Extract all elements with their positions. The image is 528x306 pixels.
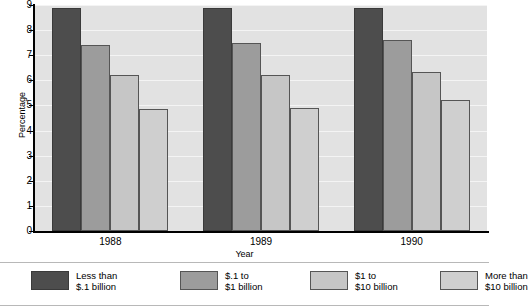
y-tick-mark xyxy=(29,30,34,31)
bar xyxy=(232,43,261,231)
legend-swatch xyxy=(310,271,348,290)
legend-label-line1: Less than xyxy=(76,270,117,281)
legend-item[interactable]: More than$10 billion xyxy=(440,270,528,292)
bar xyxy=(354,8,383,231)
legend-label-line2: $10 billion xyxy=(355,281,398,292)
legend-label-line2: $10 billion xyxy=(485,281,528,292)
legend-label: $1 to$10 billion xyxy=(355,270,398,292)
gridline xyxy=(35,30,487,31)
y-tick-mark xyxy=(29,181,34,182)
y-tick-mark xyxy=(29,105,34,106)
bar xyxy=(261,75,290,231)
x-tick-label: 1990 xyxy=(382,236,442,247)
bar xyxy=(290,108,319,231)
bar xyxy=(383,40,412,231)
legend-item[interactable]: $.1 to$1 billion xyxy=(180,270,263,292)
y-tick-mark xyxy=(29,55,34,56)
y-tick-mark xyxy=(29,231,34,232)
bar xyxy=(81,45,110,231)
bar xyxy=(203,8,232,231)
legend-label-line1: More than xyxy=(485,270,528,281)
bar xyxy=(412,72,441,231)
plot-area xyxy=(35,5,487,231)
y-tick-mark xyxy=(29,206,34,207)
y-tick-mark xyxy=(29,5,34,6)
legend-item[interactable]: Less than$.1 billion xyxy=(31,270,117,292)
x-tick-label: 1989 xyxy=(231,236,291,247)
legend-label: More than$10 billion xyxy=(485,270,528,292)
chart-legend: Less than$.1 billion$.1 to$1 billion$1 t… xyxy=(0,262,489,306)
y-tick-mark xyxy=(29,80,34,81)
legend-label-line2: $.1 billion xyxy=(76,281,117,292)
x-axis-label: Year xyxy=(0,249,489,259)
legend-label-line2: $1 billion xyxy=(225,281,263,292)
x-axis-line xyxy=(33,231,489,233)
y-tick-mark xyxy=(29,156,34,157)
legend-swatch xyxy=(31,271,69,290)
y-tick-mark xyxy=(29,131,34,132)
legend-swatch xyxy=(440,271,478,290)
y-axis-tick-labels: 0123456789 xyxy=(18,0,32,235)
bar xyxy=(52,8,81,231)
legend-swatch xyxy=(180,271,218,290)
x-tick-label: 1988 xyxy=(80,236,140,247)
legend-label-line1: $.1 to xyxy=(225,270,263,281)
legend-label: $.1 to$1 billion xyxy=(225,270,263,292)
bar xyxy=(139,109,168,231)
bar xyxy=(110,75,139,231)
bar xyxy=(441,100,470,231)
legend-label-line1: $1 to xyxy=(355,270,398,281)
gridline xyxy=(35,5,487,6)
y-axis-line xyxy=(33,4,35,233)
legend-item[interactable]: $1 to$10 billion xyxy=(310,270,398,292)
legend-label: Less than$.1 billion xyxy=(76,270,117,292)
